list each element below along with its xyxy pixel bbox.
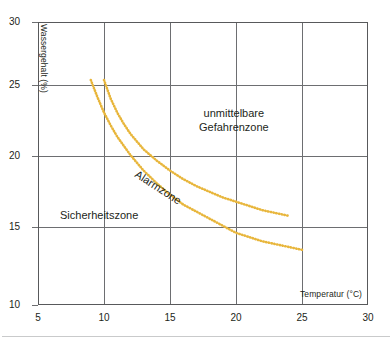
x-tick-label-30: 30 (356, 313, 380, 323)
y-tick-label-10: 10 (0, 300, 20, 310)
x-tick-label-20: 20 (224, 313, 248, 323)
x-axis-title: Temperatur (°C) (300, 289, 362, 299)
gridline-vertical-10 (104, 23, 105, 304)
y-tick-label-15: 15 (0, 222, 20, 232)
chart-figure: 30 25 20 15 10 5 10 15 20 25 30 Wasserge… (0, 0, 392, 349)
y-tick-label-30: 30 (0, 17, 20, 27)
x-tick-label-15: 15 (158, 313, 182, 323)
y-axis-title: Wassergehalt (%) (39, 24, 49, 93)
y-tick-label-25: 25 (0, 80, 20, 90)
y-tick-mark-10 (32, 305, 38, 306)
gridline-vertical-20 (236, 23, 237, 304)
gridline-horizontal-15 (39, 227, 367, 228)
zone-label-safe: Sicherheitszone (60, 208, 138, 222)
x-tick-label-5: 5 (26, 313, 50, 323)
plot-area (38, 22, 368, 305)
gridline-horizontal-25 (39, 85, 367, 86)
zone-label-danger-line2: Gefahrenzone (199, 121, 269, 133)
gridline-vertical-25 (302, 23, 303, 304)
zone-label-danger: unmittelbareGefahrenzone (199, 106, 269, 134)
gridline-horizontal-20 (39, 156, 367, 157)
bottom-divider (2, 336, 390, 337)
zone-label-danger-line1: unmittelbare (204, 107, 265, 119)
x-tick-label-10: 10 (92, 313, 116, 323)
y-tick-label-20: 20 (0, 151, 20, 161)
gridline-vertical-15 (170, 23, 171, 304)
x-tick-label-25: 25 (290, 313, 314, 323)
